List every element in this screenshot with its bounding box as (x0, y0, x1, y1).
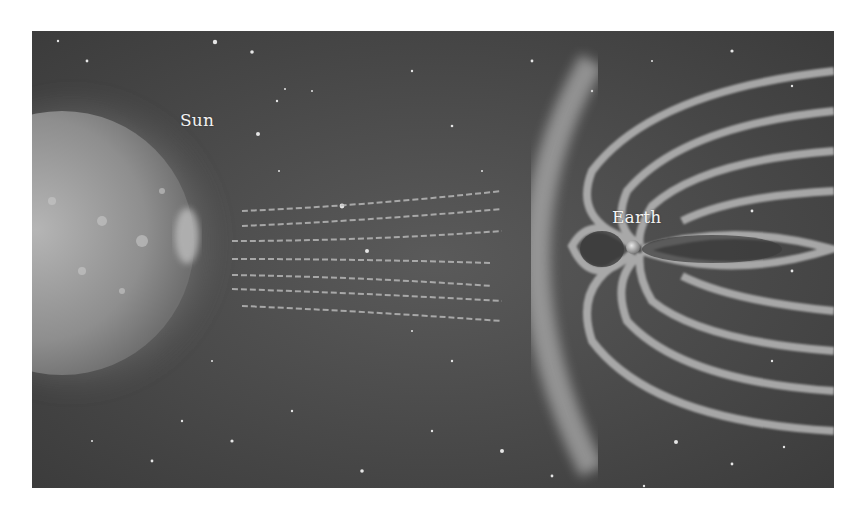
earth-label: Earth (612, 207, 661, 227)
sun-limb-glow (175, 208, 199, 264)
magnetosphere-diagram (32, 31, 834, 488)
space-illustration: Sun Earth (32, 31, 834, 488)
sun-label: Sun (180, 110, 214, 130)
magnetotail-cavity (642, 235, 782, 263)
earth (626, 240, 640, 254)
dayside-cavity (580, 231, 624, 267)
